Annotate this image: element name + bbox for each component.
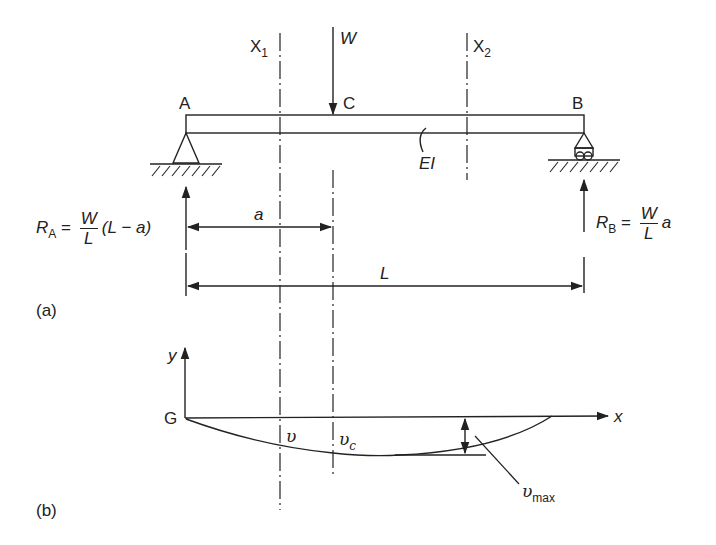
dimension-l-label: L (380, 265, 389, 282)
deflection-curve (186, 416, 552, 456)
x-axis-label: x (614, 408, 623, 425)
pin-support-a (173, 133, 199, 163)
section-label-x2: X2 (473, 38, 491, 55)
load-label: W (340, 30, 356, 47)
dimension-a-label: a (254, 206, 263, 223)
y-axis-label: y (168, 347, 177, 364)
beam-diagram: X1 X2 W A C B EI RA = WL(L − a) RB = WLa… (0, 0, 716, 545)
deflection-c-label: υc (339, 431, 356, 448)
vmax-leader (475, 436, 519, 484)
section-label-x1: X1 (250, 38, 268, 55)
stiffness-label: EI (419, 155, 435, 172)
max-deflection-label: υmax (522, 483, 555, 500)
point-a-label: A (179, 95, 190, 112)
beam (186, 115, 584, 133)
panel-a-caption: (a) (36, 302, 57, 319)
diagram-lines (0, 0, 716, 545)
panel-b-caption: (b) (36, 502, 57, 519)
origin-label: G (164, 410, 177, 427)
deflection-label: υ (286, 428, 296, 445)
roller-support-b (575, 133, 593, 148)
point-b-label: B (572, 95, 583, 112)
reaction-b-label: RB = WLa (596, 205, 671, 242)
point-c-label: C (343, 95, 355, 112)
x-axis (185, 416, 608, 418)
reaction-a-label: RA = WL(L − a) (36, 210, 151, 247)
